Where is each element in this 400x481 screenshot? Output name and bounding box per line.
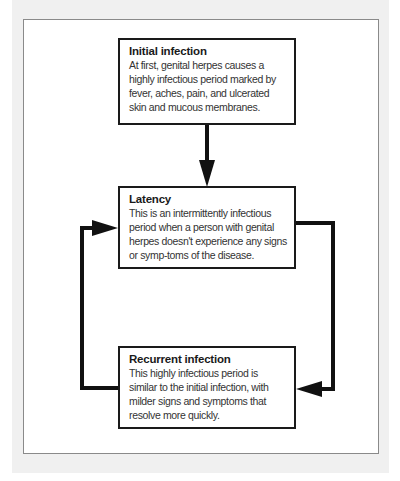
node-latency: Latency This is an intermittently infect… (118, 186, 296, 269)
node-title: Recurrent infection (129, 352, 287, 366)
node-initial-infection: Initial infection At first, genital herp… (118, 38, 296, 125)
node-description: This is an intermittently infectious per… (129, 206, 287, 262)
node-title: Latency (129, 192, 287, 206)
node-title: Initial infection (129, 44, 287, 58)
node-description: At first, genital herpes causes a highly… (129, 58, 287, 114)
node-description: This highly infectious period is similar… (129, 366, 287, 422)
node-recurrent-infection: Recurrent infection This highly infectio… (118, 346, 296, 429)
